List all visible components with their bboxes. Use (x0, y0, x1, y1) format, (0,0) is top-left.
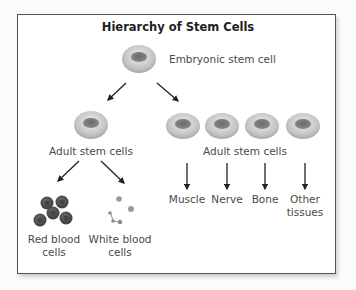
label-red-blood-line1: Red blood (28, 233, 80, 246)
embryonic-stem-cell-icon (122, 45, 156, 73)
label-red-blood-line2: cells (28, 246, 80, 259)
label-white-blood-line1: White blood (89, 233, 152, 246)
label-nerve: Nerve (211, 193, 242, 206)
arrow-to-adult-left (108, 83, 126, 100)
adult-stem-cell-right-icon (245, 113, 279, 139)
arrow-to-white-blood (101, 161, 124, 183)
adult-stem-cell-right-icon (286, 113, 320, 139)
red-blood-cells-icon (34, 196, 73, 227)
label-other-line1: Other (287, 193, 324, 206)
label-white-blood-cells: White blood cells (89, 233, 152, 259)
adult-stem-cell-right-icon (205, 113, 239, 139)
label-bone: Bone (252, 193, 279, 206)
arrow-to-red-blood (58, 161, 79, 181)
label-adult-stem-cells-left: Adult stem cells (49, 145, 133, 158)
white-blood-cells-icon (108, 196, 134, 224)
label-white-blood-line2: cells (89, 246, 152, 259)
label-muscle: Muscle (169, 193, 205, 206)
label-other-tissues: Other tissues (287, 193, 324, 219)
label-adult-stem-cells-right: Adult stem cells (203, 145, 287, 158)
label-other-line2: tissues (287, 206, 324, 219)
arrow-to-adult-right (157, 83, 178, 101)
label-embryonic-stem-cell: Embryonic stem cell (169, 53, 276, 66)
diagram-title: Hierarchy of Stem Cells (102, 20, 254, 34)
adult-stem-cell-left-icon (74, 111, 108, 139)
label-red-blood-cells: Red blood cells (28, 233, 80, 259)
adult-stem-cell-right-icon (166, 113, 200, 139)
